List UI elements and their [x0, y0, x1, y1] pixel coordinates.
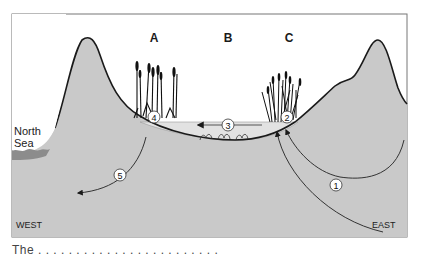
north-sea-label: North Sea	[14, 125, 41, 149]
north-sea-label-line2: Sea	[14, 137, 41, 149]
marker-4: 4	[151, 113, 156, 123]
marker-3: 3	[225, 121, 230, 131]
north-sea-label-line1: North	[14, 125, 41, 137]
west-label: WEST	[16, 220, 42, 230]
figure-caption: The . . . . . . . . . . . . . . . . . . …	[12, 243, 218, 257]
east-label: EAST	[372, 220, 396, 230]
marker-1: 1	[333, 181, 338, 191]
marker-2: 2	[284, 113, 289, 123]
marker-5: 5	[117, 171, 122, 181]
zone-label-c: C	[285, 31, 294, 45]
zone-label-b: B	[224, 31, 233, 45]
zone-label-a: A	[150, 31, 159, 45]
